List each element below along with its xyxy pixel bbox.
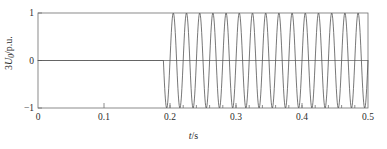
chart-figure: 3U0/p.u. 10−1 00.10.20.30.40.5 t/s bbox=[0, 0, 387, 149]
x-tick-label: 0.4 bbox=[285, 112, 319, 122]
x-tick-label: 0 bbox=[21, 112, 55, 122]
x-axis-tick-labels: 00.10.20.30.40.5 bbox=[0, 112, 387, 128]
x-tick-label: 0.2 bbox=[153, 112, 187, 122]
x-axis-label-unit: /s bbox=[192, 130, 199, 141]
x-axis-label: t/s bbox=[0, 130, 387, 141]
x-tick-label: 0.1 bbox=[87, 112, 121, 122]
x-tick-label: 0.5 bbox=[351, 112, 385, 122]
x-tick-label: 0.3 bbox=[219, 112, 253, 122]
